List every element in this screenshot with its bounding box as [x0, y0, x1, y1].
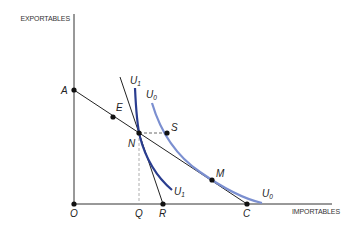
price-line-AC [74, 90, 247, 204]
label-C: C [243, 208, 251, 219]
point-S [164, 130, 169, 135]
label-S: S [171, 122, 178, 133]
label-N: N [128, 138, 136, 149]
label-R: R [159, 208, 166, 219]
point-N [136, 130, 141, 135]
label-u1-top: U1 [130, 75, 141, 87]
label-A: A [60, 85, 68, 96]
point-A [71, 87, 76, 92]
trade-diagram: EXPORTABLES IMPORTABLES A E N S M O Q R … [0, 0, 350, 227]
label-u0-top: U0 [146, 89, 157, 101]
point-M [209, 177, 214, 182]
label-E: E [116, 102, 123, 113]
label-u0-bottom: U0 [262, 188, 273, 200]
label-O: O [70, 208, 78, 219]
point-C [244, 201, 249, 206]
label-M: M [216, 168, 225, 179]
x-axis-label: IMPORTABLES [292, 208, 340, 215]
label-Q: Q [135, 208, 143, 219]
point-E [110, 114, 115, 119]
point-O [71, 201, 76, 206]
point-R [160, 201, 165, 206]
y-axis-label: EXPORTABLES [20, 15, 70, 22]
label-u1-bottom: U1 [174, 186, 185, 198]
